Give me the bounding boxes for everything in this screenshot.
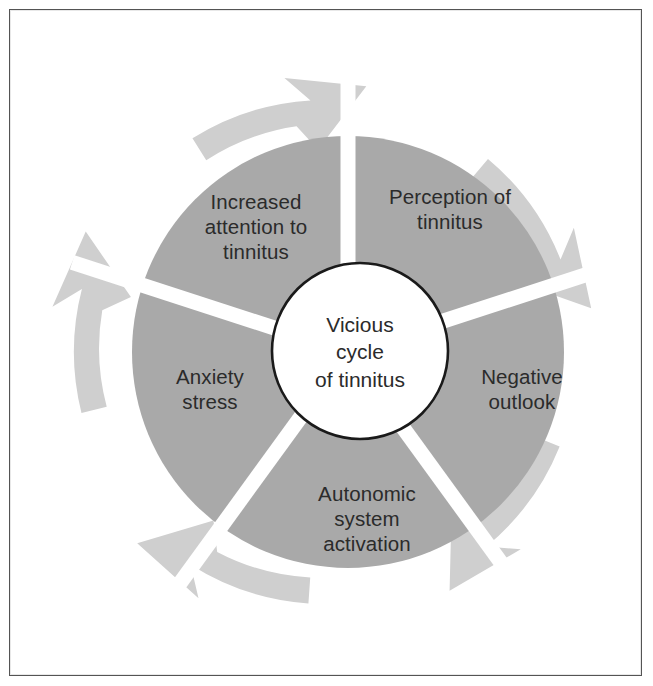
segment-label-autonomic-system-activation-wrap: Autonomic system activation <box>272 468 462 568</box>
segment-label-perception-of-tinnitus: Perception of tinnitus <box>389 184 511 234</box>
segment-label-negative-outlook-wrap: Negative outlook <box>442 356 602 422</box>
figure-canvas: Vicious cycle of tinnitus Perception of … <box>0 0 653 686</box>
segment-label-negative-outlook: Negative outlook <box>481 364 563 414</box>
segment-label-anxiety-stress-wrap: Anxiety stress <box>132 356 288 422</box>
segment-label-anxiety-stress: Anxiety stress <box>176 364 244 414</box>
segment-label-increased-attention-to-tinnitus: Increased attention to tinnitus <box>205 189 308 264</box>
segment-label-perception-of-tinnitus-wrap: Perception of tinnitus <box>355 176 545 242</box>
segment-label-autonomic-system-activation: Autonomic system activation <box>318 481 416 556</box>
segment-label-increased-attention-to-tinnitus-wrap: Increased attention to tinnitus <box>156 176 356 276</box>
center-hub-label: Vicious cycle of tinnitus <box>315 311 405 393</box>
